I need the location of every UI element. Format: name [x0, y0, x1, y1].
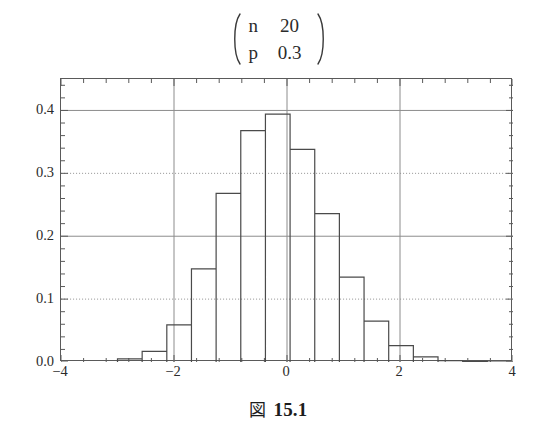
- histogram-plot: [61, 79, 513, 362]
- figure-caption: 図15.1: [0, 396, 557, 421]
- chart-title: n 20 p 0.3: [0, 8, 557, 70]
- param-value-n: 20: [268, 16, 312, 35]
- gridlines: [61, 79, 513, 362]
- x-tick-label: 2: [379, 364, 419, 379]
- caption-number: 15.1: [273, 399, 307, 420]
- plot-area: [60, 78, 512, 361]
- param-symbol-p: p: [246, 43, 268, 62]
- y-tick-label: 0.2: [2, 228, 54, 243]
- x-tick-label: 4: [492, 364, 532, 379]
- parameter-matrix: n 20 p 0.3: [229, 12, 329, 66]
- histogram-bars: [118, 114, 512, 362]
- x-tick-label: 0: [266, 364, 306, 379]
- figure-container: n 20 p 0.3 0.00.10.20.30.4 −4−2024 図15.1: [0, 0, 557, 443]
- x-tick-label: −2: [153, 364, 193, 379]
- left-paren-icon: [229, 12, 242, 66]
- caption-figure-word: 図: [249, 400, 266, 420]
- y-axis-labels: 0.00.10.20.30.4: [0, 78, 54, 361]
- x-axis-labels: −4−2024: [60, 364, 512, 386]
- x-tick-label: −4: [40, 364, 80, 379]
- matrix-body: n 20 p 0.3: [242, 12, 316, 66]
- y-tick-label: 0.3: [2, 165, 54, 180]
- param-value-p: 0.3: [268, 43, 312, 62]
- right-paren-icon: [316, 12, 329, 66]
- y-tick-label: 0.4: [2, 102, 54, 117]
- param-symbol-n: n: [246, 16, 268, 35]
- y-tick-label: 0.1: [2, 291, 54, 306]
